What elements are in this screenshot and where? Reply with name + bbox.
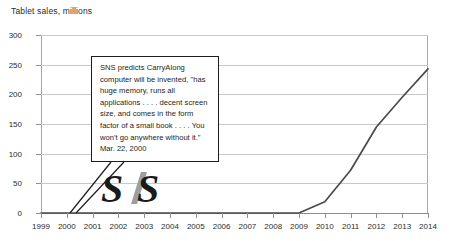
- x-tick-mark-2009: [299, 213, 300, 218]
- x-tick-label-2008: 2008: [264, 222, 282, 231]
- sns-logo: S S: [101, 166, 163, 210]
- x-tick-mark-2003: [144, 213, 145, 218]
- y-tick-label-200: 200: [0, 90, 22, 99]
- y-tick-label-50: 50: [0, 179, 22, 188]
- x-tick-label-1999: 1999: [32, 222, 50, 231]
- x-tick-mark-2013: [402, 213, 403, 218]
- x-tick-mark-2008: [273, 213, 274, 218]
- x-tick-label-2011: 2011: [342, 222, 359, 231]
- y-tick-mark-200: [36, 94, 41, 95]
- y-tick-label-300: 300: [0, 31, 22, 40]
- x-tick-mark-2005: [196, 213, 197, 218]
- y-tick-label-0: 0: [0, 209, 22, 218]
- x-tick-mark-2001: [93, 213, 94, 218]
- callout-body-text: SNS predicts CarryAlong computer will be…: [100, 62, 211, 143]
- sns-logo-letter-s-right: S: [137, 166, 159, 210]
- x-tick-label-2006: 2006: [213, 222, 231, 231]
- x-tick-mark-1999: [41, 213, 42, 218]
- x-tick-label-2000: 2000: [58, 222, 76, 231]
- x-tick-mark-2014: [428, 213, 429, 218]
- y-tick-label-250: 250: [0, 60, 22, 69]
- gridline-300: [41, 35, 428, 36]
- x-tick-label-2001: 2001: [84, 222, 102, 231]
- x-tick-label-2014: 2014: [419, 222, 437, 231]
- x-tick-label-2005: 2005: [187, 222, 205, 231]
- x-tick-label-2009: 2009: [290, 222, 308, 231]
- x-tick-mark-2011: [351, 213, 352, 218]
- tablet-sales-chart: Tablet sales, millions SNS predicts Carr…: [0, 0, 450, 241]
- y-tick-mark-250: [36, 65, 41, 66]
- y-tick-mark-50: [36, 183, 41, 184]
- x-tick-label-2002: 2002: [109, 222, 127, 231]
- sns-logo-letter-s-left: S: [101, 166, 123, 210]
- gridline-0: [41, 213, 428, 214]
- y-tick-mark-300: [36, 35, 41, 36]
- chart-title: Tablet sales, millions: [11, 6, 92, 16]
- x-tick-label-2004: 2004: [161, 222, 179, 231]
- x-tick-mark-2004: [170, 213, 171, 218]
- x-tick-label-2012: 2012: [367, 222, 385, 231]
- x-tick-label-2003: 2003: [135, 222, 153, 231]
- x-tick-mark-2006: [222, 213, 223, 218]
- y-tick-label-150: 150: [0, 120, 22, 129]
- x-tick-mark-2012: [376, 213, 377, 218]
- y-tick-label-100: 100: [0, 149, 22, 158]
- x-tick-mark-2002: [118, 213, 119, 218]
- gridline-50: [41, 183, 428, 184]
- callout-date-text: Mar. 22, 2000: [100, 143, 211, 155]
- x-tick-mark-2007: [247, 213, 248, 218]
- y-tick-mark-100: [36, 154, 41, 155]
- x-tick-label-2007: 2007: [238, 222, 256, 231]
- sns-prediction-callout: SNS predicts CarryAlong computer will be…: [91, 56, 219, 162]
- x-tick-label-2010: 2010: [316, 222, 334, 231]
- x-tick-mark-2000: [67, 213, 68, 218]
- y-tick-mark-150: [36, 124, 41, 125]
- x-tick-label-2013: 2013: [393, 222, 411, 231]
- x-tick-mark-2010: [325, 213, 326, 218]
